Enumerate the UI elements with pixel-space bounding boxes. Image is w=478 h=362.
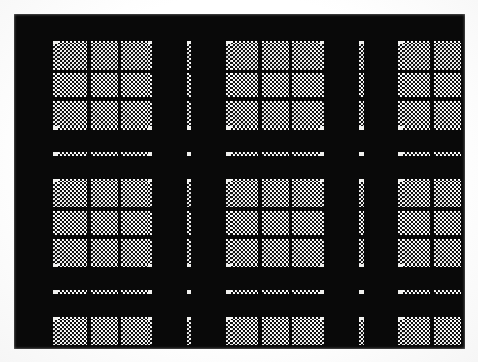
weave-cell: [434, 156, 461, 179]
weave-cell: [434, 182, 461, 207]
weave-cell: [461, 211, 465, 235]
weave-cell: [364, 294, 398, 317]
weave-cell: [292, 101, 320, 126]
weave-cell: [292, 267, 320, 290]
weave-cell: [324, 73, 359, 97]
weave-cell: [91, 267, 118, 290]
weave-cell: [191, 320, 226, 345]
weave-cell: [324, 182, 359, 207]
weave-cell: [434, 294, 461, 317]
weave-cell: [191, 156, 226, 179]
weave-cell: [434, 14, 461, 41]
weave-cell: [152, 130, 187, 152]
weave-cell: [58, 14, 87, 41]
weave-cell: [403, 239, 430, 264]
weave-cell: [58, 294, 87, 317]
weave-cell: [14, 14, 53, 41]
weave-cell: [91, 156, 118, 179]
weave-cell: [152, 182, 187, 207]
weave-cell: [324, 156, 359, 179]
weave-cell: [14, 294, 53, 317]
weave-cell: [231, 156, 258, 179]
weave-cell: [14, 156, 53, 179]
weave-cell: [403, 130, 430, 152]
weave-cell: [461, 156, 465, 179]
weave-cell: [262, 267, 289, 290]
weave-cell: [14, 211, 53, 235]
weave-cell: [14, 73, 53, 97]
weave-cell: [324, 44, 359, 70]
weave-cell: [262, 44, 289, 70]
weave-cell: [152, 320, 187, 345]
weave-cell: [292, 156, 320, 179]
weave-cell: [292, 14, 320, 41]
weave-cell: [121, 14, 148, 41]
weave-cell: [152, 14, 187, 41]
weave-cell: [231, 73, 258, 97]
weave-cell: [403, 182, 430, 207]
weave-cell: [91, 345, 118, 349]
weave-cell: [403, 211, 430, 235]
weave-cell: [14, 239, 53, 264]
weave-cell: [191, 239, 226, 264]
weave-cell: [324, 345, 359, 349]
weave-cell: [324, 211, 359, 235]
weave-cell: [231, 101, 258, 126]
weave-cell: [292, 73, 320, 97]
weave-cell: [434, 239, 461, 264]
weave-cell: [121, 101, 148, 126]
weave-cell: [191, 211, 226, 235]
weave-cell: [14, 182, 53, 207]
weave-cell: [262, 239, 289, 264]
weave-cell: [292, 239, 320, 264]
weave-cell: [58, 182, 87, 207]
weave-cell: [58, 267, 87, 290]
weave-cell: [121, 182, 148, 207]
weave-cell: [91, 73, 118, 97]
weave-cell: [121, 294, 148, 317]
weave-cell: [91, 101, 118, 126]
weave-cell: [461, 101, 465, 126]
weave-cell: [403, 44, 430, 70]
weave-cell: [364, 73, 398, 97]
weave-cell: [152, 211, 187, 235]
weave-cell: [191, 267, 226, 290]
weave-cell: [461, 320, 465, 345]
weave-cell: [152, 73, 187, 97]
weave-cell: [262, 182, 289, 207]
weave-cell: [364, 345, 398, 349]
weave-cell: [14, 101, 53, 126]
weave-cell: [121, 73, 148, 97]
weave-cell: [461, 345, 465, 349]
weave-cell: [403, 73, 430, 97]
weave-cell: [231, 182, 258, 207]
weave-cell: [434, 345, 461, 349]
weave-cell: [231, 14, 258, 41]
weave-cell: [364, 130, 398, 152]
weave-cell: [324, 14, 359, 41]
weave-cell: [121, 345, 148, 349]
weave-cell: [231, 345, 258, 349]
weave-cell: [121, 44, 148, 70]
weave-cell: [191, 14, 226, 41]
weave-cell: [91, 182, 118, 207]
weave-cell: [461, 44, 465, 70]
weave-cell: [434, 320, 461, 345]
weave-cell: [262, 156, 289, 179]
weave-cell: [58, 211, 87, 235]
weave-cell: [434, 101, 461, 126]
weave-cell: [58, 130, 87, 152]
weave-cell: [152, 239, 187, 264]
weave-cell: [292, 182, 320, 207]
weave-cell: [121, 156, 148, 179]
weave-cell: [403, 14, 430, 41]
weave-cell: [364, 14, 398, 41]
weave-cell: [434, 267, 461, 290]
weave-cell: [364, 101, 398, 126]
weave-cell: [152, 44, 187, 70]
weave-cell: [364, 182, 398, 207]
weave-cell: [262, 320, 289, 345]
weave-cell: [292, 320, 320, 345]
weave-cell: [324, 239, 359, 264]
weave-cell: [191, 101, 226, 126]
